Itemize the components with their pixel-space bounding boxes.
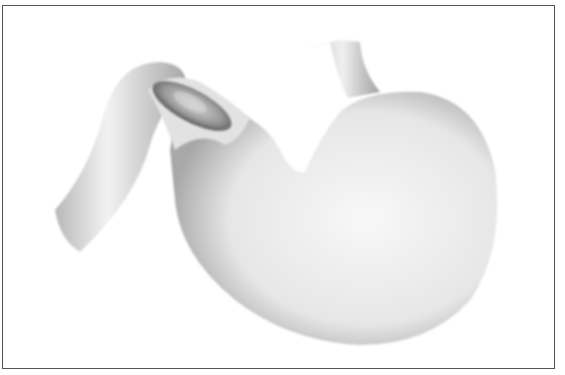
- stomach-illustration: [0, 0, 565, 375]
- esophagus: [305, 40, 380, 98]
